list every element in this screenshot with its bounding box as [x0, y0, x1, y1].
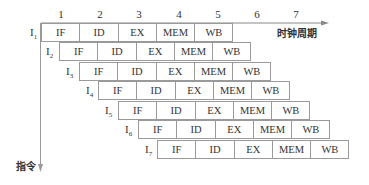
instruction-row: IF ID EX MEM WB [118, 101, 310, 120]
stage-cell: IF [98, 81, 137, 100]
stage-cell: IF [41, 23, 80, 42]
stage-cell: IF [138, 120, 177, 139]
instruction-label: I4 [86, 84, 93, 99]
stage-cell: MEM [233, 101, 272, 120]
stage-cell: IF [118, 101, 157, 120]
stage-cell: WB [212, 42, 251, 61]
stage-cell: WB [251, 81, 290, 100]
cycle-number: 1 [51, 8, 71, 20]
stage-cell: EX [195, 101, 234, 120]
stage-cell: MEM [272, 140, 311, 159]
stage-cell: WB [194, 23, 233, 42]
y-axis-label: 指令 [16, 158, 36, 173]
instruction-label: I5 [105, 104, 112, 119]
instruction-label: I1 [30, 26, 37, 41]
stage-cell: ID [79, 23, 118, 42]
stage-cell: WB [310, 140, 349, 159]
cycle-number: 6 [247, 8, 267, 20]
stage-cell: EX [156, 62, 195, 81]
cycle-number: 5 [208, 8, 228, 20]
stage-cell: WB [271, 101, 310, 120]
stage-cell: IF [59, 42, 98, 61]
stage-cell: ID [176, 120, 215, 139]
instruction-row: IF ID EX MEM WB [59, 42, 251, 61]
y-axis-arrow-icon [38, 164, 43, 172]
stage-cell: EX [234, 140, 273, 159]
instruction-row: IF ID EX MEM WB [41, 23, 233, 42]
instruction-label: I2 [46, 45, 53, 60]
stage-cell: EX [118, 23, 157, 42]
instruction-label: I7 [145, 143, 152, 158]
instruction-row: IF ID EX MEM WB [157, 140, 349, 159]
stage-cell: WB [291, 120, 330, 139]
instruction-label: I3 [66, 65, 73, 80]
stage-cell: MEM [174, 42, 213, 61]
stage-cell: ID [156, 101, 195, 120]
instruction-row: IF ID EX MEM WB [98, 81, 290, 100]
stage-cell: ID [195, 140, 234, 159]
stage-cell: ID [136, 81, 175, 100]
stage-cell: MEM [253, 120, 292, 139]
stage-cell: EX [136, 42, 175, 61]
instruction-row: IF ID EX MEM WB [79, 62, 271, 81]
stage-cell: MEM [194, 62, 233, 81]
stage-cell: MEM [213, 81, 252, 100]
instruction-row: IF ID EX MEM WB [138, 120, 330, 139]
stage-cell: ID [97, 42, 136, 61]
stage-cell: ID [117, 62, 156, 81]
stage-cell: EX [175, 81, 214, 100]
cycle-number: 2 [90, 8, 110, 20]
x-axis-arrow-icon [321, 21, 329, 26]
cycle-number: 4 [169, 8, 189, 20]
cycle-number: 3 [129, 8, 149, 20]
stage-cell: EX [215, 120, 254, 139]
cycle-number: 7 [286, 8, 306, 20]
x-axis-label: 时钟周期 [277, 25, 317, 40]
stage-cell: IF [157, 140, 196, 159]
stage-cell: IF [79, 62, 118, 81]
stage-cell: MEM [156, 23, 195, 42]
pipeline-diagram: 1 2 3 4 5 6 7 时钟周期 指令 I1 IF ID EX MEM WB… [0, 0, 369, 185]
stage-cell: WB [232, 62, 271, 81]
instruction-label: I6 [125, 123, 132, 138]
